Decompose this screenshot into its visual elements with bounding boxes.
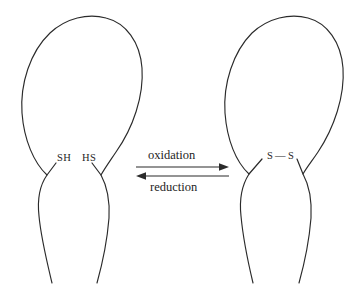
thiol-label-sh: SH [57, 152, 71, 163]
right-disulfide-connectors [249, 159, 303, 174]
hs-connector-line [92, 163, 101, 175]
s-right-connector-line [297, 159, 303, 174]
forward-arrow-head [219, 163, 229, 171]
reverse-arrow-head [136, 172, 146, 180]
left-thiol-connectors [47, 163, 101, 175]
sulfur-label-right: S [288, 150, 294, 161]
equilibrium-arrows [136, 163, 229, 180]
sh-connector-line [47, 163, 56, 175]
left-molecule-outline [22, 16, 142, 283]
thiol-label-hs: HS [82, 152, 96, 163]
disulfide-bond-dash: — [275, 150, 286, 161]
sulfur-label-left: S [267, 150, 273, 161]
s-left-connector-line [249, 159, 262, 174]
reaction-label-oxidation: oxidation [148, 148, 195, 163]
disulfide-reaction-figure: SH HS S — S oxidation reduction [0, 0, 350, 295]
reaction-label-reduction: reduction [150, 180, 197, 195]
